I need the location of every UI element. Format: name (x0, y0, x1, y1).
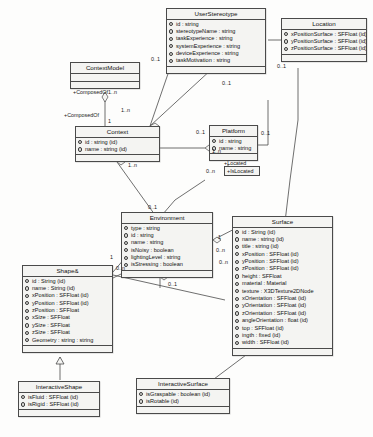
attribute-row: xPositionSurface : SFFloat (id) (282, 31, 366, 38)
attribute-row: taskMotivation : string (167, 57, 265, 64)
class-attributes: xPositionSurface : SFFloat (id) yPositio… (282, 30, 366, 55)
attribute-row: name : String (id) (23, 285, 112, 292)
class-title: InteractiveSurface (137, 379, 229, 390)
label-platform-left-mult: 0..1 (196, 129, 205, 135)
attribute-row: name : string (id) (76, 146, 159, 153)
class-attributes: id : string stereotypeName : string task… (167, 20, 265, 67)
attribute-row: height : SFFloat (233, 273, 332, 280)
label-environment-one-mult: 1 (218, 234, 221, 240)
attribute-row: isRotable (id) (137, 398, 229, 405)
class-operations (167, 67, 265, 73)
attribute-row: zPosition : SFFloat (23, 307, 112, 314)
attribute-row: taskExperience : string (167, 35, 265, 42)
label-environment-right-mult: 0..n (216, 247, 225, 253)
attribute-row: xOrientation : SFFloat (id) (233, 295, 332, 302)
attribute-row: width : SFFloat (id) (233, 339, 332, 346)
label-location-mult: 0..1 (277, 63, 286, 69)
label-located-mult: 0..n (206, 168, 215, 174)
attribute-row: isFluid : SFFloat (id) (19, 394, 99, 401)
attribute-row: zSize : SFFloat (23, 329, 112, 336)
label-shape-right-mult: 0..n (116, 265, 125, 271)
label-contextmodel-mult-one: 1 (108, 118, 111, 124)
attribute-row: xPosition : SFFloat (id) (23, 292, 112, 299)
attribute-row: zPosition : SFFloat (id) (233, 265, 332, 272)
label-context-right-mult: 1..n (212, 148, 221, 154)
class-surface[interactable]: Surface id : String (id) name : string (… (232, 216, 333, 356)
edge-userstereotype-context2 (150, 68, 213, 126)
inheritance-triangle (56, 357, 64, 364)
class-title: Shape& (23, 266, 112, 277)
class-title: InteractiveShape (19, 382, 99, 393)
attribute-row: type : string (122, 225, 212, 232)
class-operations (137, 407, 229, 413)
attribute-row: id : string (210, 138, 257, 145)
attribute-row: xSize : SFFloat (23, 314, 112, 321)
label-composed-of-mult: 1..n (108, 89, 117, 95)
attribute-row: top : SFFloat (id) (233, 325, 332, 332)
attribute-row: systemExperience : string (167, 43, 265, 50)
class-operations (71, 82, 139, 88)
class-attributes: id : string (id) name : string (id) (76, 138, 159, 155)
class-user-stereotype[interactable]: UserStereotype id : string stereotypeNam… (166, 8, 266, 74)
attribute-row: name : string (122, 239, 212, 246)
attribute-row: lightingLevel : string (122, 254, 212, 261)
class-operations (19, 410, 99, 416)
label-environment-bottom-mult: 0..1 (168, 281, 177, 287)
attribute-row: yOrientation : SFFloat (id) (233, 302, 332, 309)
label-context-bottom-mult: 1..n (128, 162, 137, 168)
class-platform[interactable]: Platform id : string name : string (209, 125, 258, 161)
attribute-row: isGraspable : boolean (id) (137, 391, 229, 398)
attribute-row: deviceExperience : string (167, 50, 265, 57)
class-title: UserStereotype (167, 9, 265, 20)
attribute-row: isStressing : boolean (122, 261, 212, 268)
class-attributes: isGraspable : boolean (id) isRotable (id… (137, 390, 229, 407)
attribute-row: isRigid : SFFloat (id) (19, 401, 99, 408)
attribute-row: texture : X3DTexture2DNode (233, 288, 332, 295)
attribute-row: angleOrientation : float (id) (233, 317, 332, 324)
attribute-row: isNoisy : boolean (122, 247, 212, 254)
attribute-row: id : String (id) (233, 229, 332, 236)
attribute-row: yPosition : SFFloat (id) (23, 300, 112, 307)
class-attributes: type : string id : string name : string … (122, 224, 212, 271)
label-is-located-role: +IsLocated (224, 166, 260, 176)
class-interactive-shape[interactable]: InteractiveShape isFluid : SFFloat (id) … (18, 381, 100, 417)
attribute-row: ingth : fixed (id) (233, 332, 332, 339)
attribute-row: zPositionSurface : SFFloat (id) (282, 45, 366, 52)
class-title: Platform (210, 126, 257, 137)
class-shape[interactable]: Shape& id : String (id) name : String (i… (22, 265, 113, 353)
attribute-row: id : string (167, 21, 265, 28)
attribute-row: yPositionSurface : SFFloat (id) (282, 38, 366, 45)
attribute-row: id : string (122, 232, 212, 239)
label-stereotype-bottom-mult: 0..1 (222, 80, 231, 86)
label-shape-one-mult: 1 (110, 254, 113, 260)
label-stereotype-left-mult: 0..1 (151, 56, 160, 62)
attribute-row: xPosition : SFFloat (id) (233, 251, 332, 258)
class-operations (122, 271, 212, 277)
class-operations (23, 346, 112, 352)
attribute-row: title : string (id) (233, 243, 332, 250)
class-title: Context (76, 127, 159, 138)
label-composed-of-role: +ComposedOf (73, 89, 108, 95)
attribute-row: Geometry : string : string (23, 337, 112, 344)
label-environment-top-mult: 0..1 (148, 204, 157, 210)
class-context[interactable]: Context id : string (id) name : string (… (75, 126, 160, 162)
attribute-row: stereotypeName : string (167, 28, 265, 35)
class-attributes: id : String (id) name : string (id) titl… (233, 228, 332, 349)
class-interactive-surface[interactable]: InteractiveSurface isGraspable : boolean… (136, 378, 230, 414)
attribute-row: ySize : SFFloat (23, 322, 112, 329)
class-title: Environment (122, 213, 212, 224)
edge-shape-surface (113, 275, 225, 300)
class-title: Location (282, 19, 366, 30)
class-attributes (71, 74, 139, 82)
class-location[interactable]: Location xPositionSurface : SFFloat (id)… (281, 18, 367, 62)
edge-context-userstereotype (150, 68, 170, 126)
label-is-composed-of: +ComposedOf (64, 112, 99, 118)
attribute-row: id : String (id) (23, 278, 112, 285)
label-surface-left-mult: 0..n (219, 259, 228, 265)
class-operations (76, 155, 159, 161)
class-context-model[interactable]: ContextModel (70, 62, 140, 89)
class-environment[interactable]: Environment type : string id : string na… (121, 212, 213, 278)
attribute-row: yPosition : SFFloat (id) (233, 258, 332, 265)
attribute-row: zOrientation : SFFloat (id) (233, 310, 332, 317)
class-operations (233, 349, 332, 355)
